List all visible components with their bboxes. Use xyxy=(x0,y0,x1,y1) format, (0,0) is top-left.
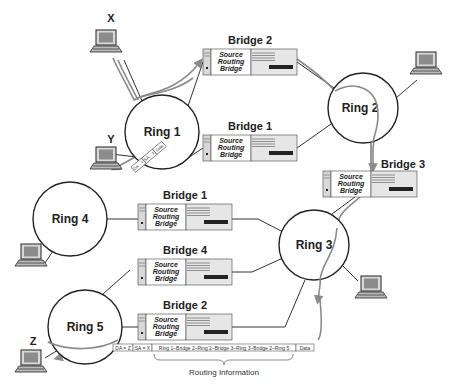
bridge-line: Source xyxy=(154,206,178,213)
computer-icon xyxy=(90,30,122,52)
bridge-line: Bridge xyxy=(155,330,177,338)
computer-icon xyxy=(355,276,387,298)
bridge-title: Bridge 1 xyxy=(163,189,207,201)
station-x[interactable]: X xyxy=(90,12,122,52)
ring-5-label: Ring 5 xyxy=(67,320,104,334)
bridge-bottom-2[interactable]: Bridge 2 Source Routing Bridge xyxy=(138,299,232,340)
ring-2-label: Ring 2 xyxy=(342,101,379,115)
bridge-line: Source xyxy=(219,51,243,58)
station-z-label: Z xyxy=(30,335,37,347)
bridge-top-2[interactable]: Bridge 2 Source Routing Bridge xyxy=(203,34,297,75)
bridge-line: Bridge xyxy=(220,65,242,73)
ring-4-label: Ring 4 xyxy=(52,212,89,226)
frame-sa: SA = X xyxy=(135,345,151,351)
station-x-label: X xyxy=(107,12,115,24)
frame-data: Data xyxy=(300,345,311,351)
bridge-top-1[interactable]: Bridge 1 Source Routing Bridge xyxy=(203,120,297,161)
ring-2[interactable]: Ring 2 xyxy=(328,73,398,143)
bridge-title: Bridge 1 xyxy=(228,120,272,132)
bridge-line: Bridge xyxy=(155,275,177,283)
ring-5[interactable]: Ring 5 xyxy=(48,290,122,364)
station-ring4[interactable] xyxy=(15,244,47,266)
station-ring3[interactable] xyxy=(355,276,387,298)
ring-1[interactable]: Ring 1 xyxy=(125,95,199,169)
frame-route: Ring 1–Bridge 2–Ring 2–Bridge 3–Ring 3–B… xyxy=(159,345,290,351)
bridge-line: Bridge xyxy=(220,151,242,159)
bridge-line: Bridge xyxy=(340,187,362,195)
bridge-title: Bridge 2 xyxy=(163,299,207,311)
frame-da: DA = Z xyxy=(115,345,130,351)
bridge-line: Source xyxy=(154,316,178,323)
bridge-title: Bridge 2 xyxy=(228,34,272,46)
bridge-line: Source xyxy=(219,137,243,144)
bridge-title: Bridge 4 xyxy=(163,244,208,256)
computer-icon xyxy=(90,147,122,169)
bridge-line: Source xyxy=(339,173,363,180)
bridge-4[interactable]: Bridge 4 Source Routing Bridge xyxy=(138,244,232,285)
brace xyxy=(154,354,293,365)
ring-3-label: Ring 3 xyxy=(296,238,333,252)
ring-4[interactable]: Ring 4 xyxy=(33,182,107,256)
station-y[interactable]: Y xyxy=(90,133,122,169)
bridge-line: Source xyxy=(154,261,178,268)
routing-information-caption: Routing Information xyxy=(189,368,259,377)
station-y-label: Y xyxy=(107,133,115,145)
bridge-title: Bridge 3 xyxy=(381,158,425,170)
computer-icon xyxy=(15,244,47,266)
station-ring2[interactable] xyxy=(410,52,442,74)
ring-1-label: Ring 1 xyxy=(144,125,181,139)
station-z[interactable]: Z xyxy=(15,335,47,372)
bridge-3[interactable]: Bridge 3 Source Routing Bridge xyxy=(323,158,425,197)
computer-icon xyxy=(15,350,47,372)
computer-icon xyxy=(410,52,442,74)
ring-3[interactable]: Ring 3 xyxy=(279,210,349,280)
bridge-line: Bridge xyxy=(155,220,177,228)
routing-frame: DA = Z SA = X Ring 1–Bridge 2–Ring 2–Bri… xyxy=(113,344,314,377)
bridge-bottom-1[interactable]: Bridge 1 Source Routing Bridge xyxy=(138,189,232,230)
source-routing-diagram: Ring 1 Ring 2 Ring 3 Ring 4 Ring 5 DA = … xyxy=(0,0,460,385)
